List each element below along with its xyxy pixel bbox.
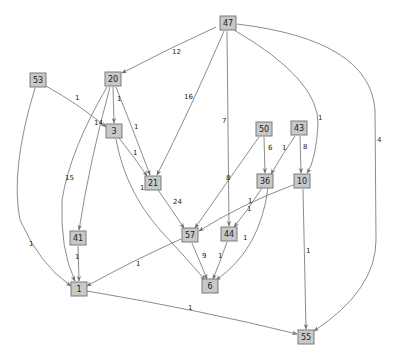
edge-10-to-55 [303,189,306,329]
edge-weight-label: 6 [268,144,273,152]
edge-weight-label: 1 [75,253,79,261]
edge-53-to-1 [17,88,71,286]
edge-1-to-55 [87,291,297,334]
node-55[interactable]: 55 [298,330,314,344]
edge-weight-label: 8 [226,174,230,182]
edge-41-to-1 [78,246,79,281]
node-label: 36 [260,177,270,186]
edge-21-to-57 [158,190,184,228]
edge-weight-label: 1 [218,252,222,260]
node-label: 41 [73,234,83,243]
node-53[interactable]: 53 [30,73,46,87]
node-6[interactable]: 6 [202,279,218,293]
node-10[interactable]: 10 [294,174,310,188]
edge-weight-label: 7 [222,117,226,125]
node-3[interactable]: 3 [106,124,122,138]
edge-weight-label: 12 [172,48,181,56]
edge-weight-label: 1 [282,144,286,152]
edge-47-to-10 [234,30,318,173]
edge-weight-label: 4 [377,136,382,144]
node-label: 55 [301,333,311,342]
node-label: 1 [76,285,81,294]
node-1[interactable]: 1 [71,282,87,296]
node-label: 20 [108,75,118,84]
edge-43-to-36 [271,136,295,174]
edge-weight-label: 1 [248,197,252,205]
node-47[interactable]: 47 [220,16,236,30]
edge-20-to-1 [62,87,107,281]
graph-canvas: 121671411111415112246818111111911 475320… [0,0,393,361]
node-label: 10 [297,177,307,186]
node-20[interactable]: 20 [105,72,121,86]
node-label: 53 [33,76,43,85]
node-label: 43 [294,124,304,133]
edge-47-to-21 [157,31,224,175]
node-label: 47 [223,19,233,28]
edge-43-to-10 [300,136,301,173]
node-41[interactable]: 41 [70,231,86,245]
edge-weight-label: 1 [136,260,140,268]
node-label: 57 [185,231,195,240]
node-label: 21 [148,179,158,188]
edge-weight-label: 1 [243,234,247,242]
edge-weight-label: 1 [117,95,121,103]
edge-weight-label: 1 [29,240,33,248]
node-36[interactable]: 36 [257,174,273,188]
edge-weight-label: 1 [318,114,322,122]
node-21[interactable]: 21 [145,176,161,190]
edge-47-to-20 [122,27,216,73]
edge-weight-label: 1 [133,149,137,157]
edge-weight-label: 24 [173,198,182,206]
edge-20-to-3 [113,87,114,123]
edge-weight-label: 9 [202,252,206,260]
edge-weight-label: 1 [306,247,310,255]
node-44[interactable]: 44 [221,227,237,241]
edge-weight-label: 15 [65,174,74,182]
edge-57-to-1 [87,239,181,286]
node-43[interactable]: 43 [291,121,307,135]
edge-weight-label: 1 [75,94,79,102]
edge-weight-label: 14 [94,119,103,127]
node-label: 50 [259,125,269,134]
node-label: 44 [224,230,234,239]
edge-weight-label: 16 [184,93,193,101]
edge-50-to-36 [264,137,265,173]
edge-47-to-44 [227,31,229,226]
node-label: 3 [111,127,116,136]
edge-weight-label: 1 [247,205,251,213]
node-57[interactable]: 57 [182,228,198,242]
edge-3-to-6 [116,139,205,280]
edge-weight-label: 1 [188,304,192,312]
node-50[interactable]: 50 [256,122,272,136]
edge-weight-label: 8 [303,143,307,151]
edge-weight-label: 1 [134,123,138,131]
node-label: 6 [207,282,212,291]
edge-20-to-41 [79,87,110,230]
edge-label-layer: 121671411111415112246818111111911 [29,48,382,312]
edge-10-to-57 [199,185,293,231]
